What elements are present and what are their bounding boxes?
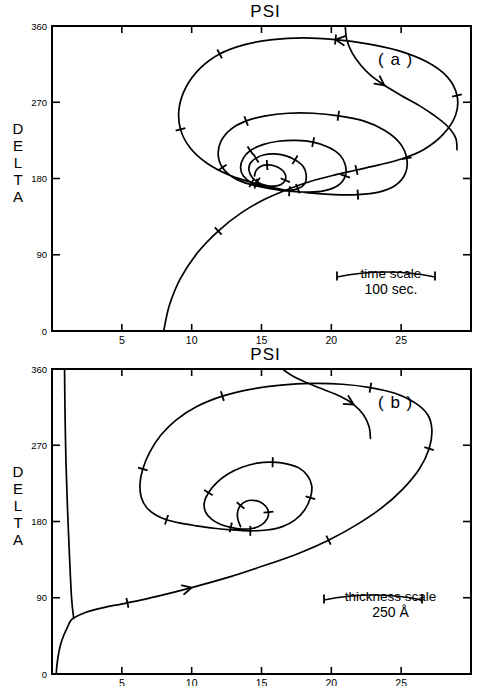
- trajectory-time-tick: [253, 154, 258, 163]
- trajectory-time-tick: [267, 160, 268, 170]
- trajectory-arrowhead: [374, 76, 384, 85]
- trajectory-path: [65, 369, 74, 618]
- trajectory-time-tick: [358, 190, 359, 200]
- trajectory-group: [56, 369, 434, 674]
- trajectory-time-tick: [292, 156, 297, 165]
- y-tick-label: 270: [31, 440, 47, 451]
- thickness-scale-value: 250 Å: [318, 604, 463, 620]
- y-tick-label: 0: [42, 326, 47, 337]
- trajectory-time-tick: [452, 94, 462, 96]
- panel-b-scale-annotation: thickness scale 250 Å: [318, 589, 463, 620]
- y-tick-label: 360: [31, 364, 47, 375]
- panel-a: PSI D E L T A 510152025090180270360 ( a …: [0, 0, 487, 343]
- panel-b-plot: 510152025090180270360: [0, 343, 487, 686]
- panel-b-tag: ( b ): [378, 393, 413, 413]
- trajectory-time-tick: [370, 383, 372, 393]
- x-tick-label: 20: [325, 677, 337, 686]
- x-tick-label: 25: [395, 677, 407, 686]
- trajectory-path: [282, 369, 370, 438]
- trajectory-time-tick: [289, 186, 290, 196]
- y-tick-label: 180: [31, 516, 47, 527]
- y-tick-label: 90: [36, 592, 47, 603]
- trajectory-time-tick: [247, 146, 253, 154]
- x-tick-label: 10: [186, 677, 198, 686]
- panel-a-tag: ( a ): [378, 50, 413, 70]
- trajectory-path: [345, 26, 457, 150]
- trajectory-path: [56, 383, 432, 674]
- trajectory-time-tick: [355, 165, 357, 175]
- trajectory-time-tick: [126, 598, 128, 608]
- trajectory-time-tick: [312, 137, 314, 147]
- panel-b: PSI D E L T A 510152025090180270360 ( b …: [0, 343, 487, 686]
- panel-a-scale-annotation: time scale 100 sec.: [331, 266, 451, 297]
- trajectory-time-tick: [230, 523, 232, 533]
- y-tick-label: 360: [31, 21, 47, 32]
- y-tick-label: 0: [42, 669, 47, 680]
- x-tick-label: 15: [256, 677, 268, 686]
- plot-frame: [52, 369, 471, 674]
- y-tick-label: 90: [36, 249, 47, 260]
- time-scale-value: 100 sec.: [331, 281, 451, 297]
- trajectory-time-tick: [218, 165, 226, 171]
- thickness-scale-arc-icon: [318, 590, 428, 604]
- y-tick-label: 180: [31, 173, 47, 184]
- trajectory-time-tick: [204, 490, 213, 495]
- x-tick-label: 5: [119, 677, 125, 686]
- y-tick-label: 270: [31, 97, 47, 108]
- trajectory-time-tick: [338, 111, 340, 121]
- trajectory-time-tick: [264, 512, 274, 513]
- time-scale-arc-icon: [331, 267, 441, 281]
